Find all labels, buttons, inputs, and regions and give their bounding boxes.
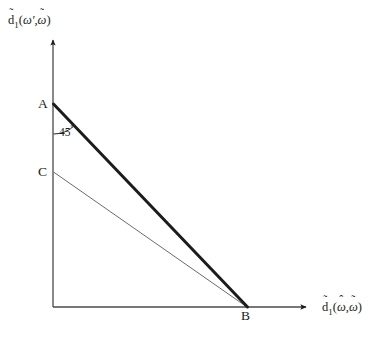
point-label-c: C: [38, 165, 47, 179]
x-axis-label-omega-tilde: ω˜: [349, 301, 358, 314]
segment-ab: [54, 104, 248, 307]
x-axis-label: d˜1(ωˆ,ω˜): [322, 301, 362, 314]
angle-value: 45: [59, 126, 71, 138]
y-axis-label-d-tilde: d˜: [8, 14, 14, 27]
x-axis-label-omega-hat: ωˆ: [337, 301, 346, 314]
y-axis-label-omega-tilde: ω˜: [38, 14, 47, 27]
point-label-b: B: [241, 309, 250, 323]
degree-symbol-icon: º: [71, 123, 74, 133]
segment-cb: [54, 172, 248, 307]
figure-drawing: [0, 0, 380, 338]
y-axis-label-d: d: [8, 14, 14, 27]
point-label-a: A: [38, 97, 48, 111]
x-axis-label-close-paren: ): [358, 300, 362, 314]
y-axis-label-omega-prime: ω': [23, 13, 35, 27]
x-axis-label-omega-2: ω: [349, 301, 358, 314]
y-axis-label: d˜1(ω',ω˜): [8, 14, 51, 27]
y-axis-label-omega: ω: [38, 14, 47, 27]
y-axis-label-close-paren: ): [46, 13, 50, 27]
x-axis-label-d-tilde: d˜: [322, 301, 328, 314]
x-axis-label-d: d: [322, 301, 328, 314]
figure-canvas: d˜1(ω',ω˜) d˜1(ωˆ,ω˜) A C B 45º: [0, 0, 380, 338]
x-axis-label-omega-1: ω: [337, 301, 346, 314]
angle-label-45: 45º: [59, 127, 73, 139]
